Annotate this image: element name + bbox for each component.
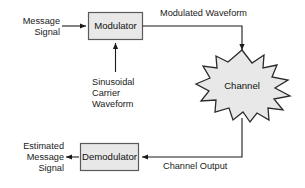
channel-label: Channel <box>212 80 272 91</box>
carrier-waveform-label: Sinusoidal Carrier Waveform <box>92 77 162 111</box>
demodulator-label: Demodulator <box>80 152 139 162</box>
message-signal-label: Message Signal <box>0 16 60 38</box>
modulated-waveform-label: Modulated Waveform <box>160 8 280 19</box>
estimated-message-signal-label: Estimated Message Signal <box>0 141 64 175</box>
line-channel-to-demodulator <box>142 118 242 157</box>
block-diagram: Modulator Demodulator Channel Message Si… <box>0 0 305 188</box>
channel-output-label: Channel Output <box>163 161 273 172</box>
modulator-label: Modulator <box>88 21 143 31</box>
line-modulator-to-channel <box>143 26 243 50</box>
